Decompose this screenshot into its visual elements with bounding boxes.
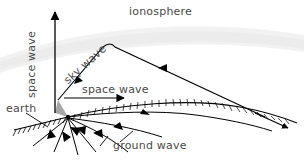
label-space-wave-vertical: space wave bbox=[25, 31, 38, 98]
propagation-diagram: ionosphere space wave sky wave space wav… bbox=[0, 0, 304, 160]
sky-wave-return-arrow bbox=[255, 113, 288, 128]
earth-surface-right bbox=[68, 99, 297, 124]
ionosphere-band bbox=[0, 26, 304, 73]
transmitter-origin bbox=[55, 100, 70, 119]
label-ionosphere: ionosphere bbox=[129, 5, 192, 18]
label-earth: earth bbox=[6, 102, 36, 115]
diagram-canvas bbox=[0, 0, 304, 160]
earth-surface-left bbox=[13, 117, 68, 136]
label-space-wave-horizontal: space wave bbox=[82, 83, 149, 96]
label-ground-wave: ground wave bbox=[113, 139, 187, 152]
